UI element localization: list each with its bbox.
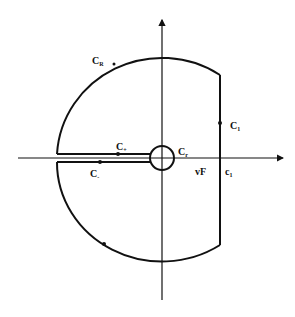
arrow-marker-c1 xyxy=(218,121,222,125)
label-c1-intercept: c1 xyxy=(225,166,232,178)
arrow-marker-cr-arc xyxy=(113,63,116,66)
arrow-marker-lower-arc xyxy=(102,242,106,246)
label-c-minus: C- xyxy=(90,168,99,180)
label-c1: C1 xyxy=(230,120,240,132)
arrow-marker-cplus xyxy=(116,152,120,156)
label-c-r-big: CR xyxy=(92,55,104,67)
arrow-marker-cminus xyxy=(98,160,102,164)
contour-diagram: CR C1 C+ C- Cr vF c1 xyxy=(0,0,295,317)
label-vf: vF xyxy=(195,166,206,177)
label-c-r-small: Cr xyxy=(178,146,188,158)
big-arc-upper xyxy=(57,58,220,154)
label-c-plus: C+ xyxy=(116,141,127,153)
